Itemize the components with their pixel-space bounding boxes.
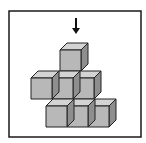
cube <box>60 43 88 71</box>
cube-diagram <box>0 0 146 143</box>
cube <box>46 99 74 127</box>
cube <box>31 71 59 99</box>
